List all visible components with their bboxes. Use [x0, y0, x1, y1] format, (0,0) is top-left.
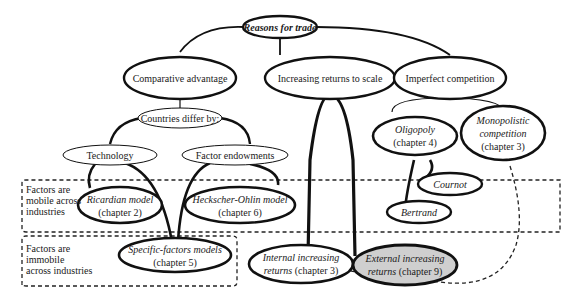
- node-cournot: Cournot: [418, 173, 482, 195]
- node-comparative-advantage: Comparative advantage: [124, 57, 236, 99]
- svg-text:immobile: immobile: [26, 254, 65, 265]
- node-monopolistic-competition: Monopolistic competition (chapter 3): [461, 106, 545, 160]
- node-increasing-returns: Increasing returns to scale: [265, 57, 395, 99]
- node-reasons-for-trade: Reasons for trade: [243, 16, 317, 38]
- node-oligopoly: Oligopoly (chapter 4): [373, 117, 457, 155]
- svg-text:Bertrand: Bertrand: [401, 207, 438, 218]
- svg-text:Countries differ by:: Countries differ by:: [141, 113, 220, 124]
- svg-text:Imperfect competition: Imperfect competition: [405, 73, 494, 84]
- node-bertrand: Bertrand: [387, 201, 451, 223]
- svg-text:External increasing: External increasing: [365, 253, 445, 264]
- node-specific-factors: Specific-factors models (chapter 5): [119, 238, 231, 272]
- svg-text:(chapter 3): (chapter 3): [481, 141, 525, 153]
- svg-text:Reasons for trade: Reasons for trade: [243, 22, 317, 33]
- label-factors-immobile: Factors are immobile across industries: [26, 243, 92, 276]
- trade-reasons-diagram: Reasons for trade Comparative advantage …: [0, 0, 567, 299]
- node-technology: Technology: [63, 145, 157, 165]
- svg-text:industries: industries: [26, 206, 65, 217]
- svg-text:Factors are: Factors are: [26, 184, 71, 195]
- svg-text:returns (chapter 3): returns (chapter 3): [264, 265, 339, 277]
- svg-text:Specific-factors models: Specific-factors models: [128, 244, 222, 255]
- svg-text:Ricardian model: Ricardian model: [86, 194, 154, 205]
- node-external-increasing-returns: External increasing returns (chapter 9): [353, 245, 457, 285]
- svg-text:Comparative advantage: Comparative advantage: [133, 73, 228, 84]
- svg-text:Internal increasing: Internal increasing: [262, 252, 340, 263]
- svg-text:Factors are: Factors are: [26, 243, 71, 254]
- svg-text:(chapter 4): (chapter 4): [393, 137, 437, 149]
- node-imperfect-competition: Imperfect competition: [394, 57, 506, 99]
- label-factors-mobile: Factors are mobile across industries: [26, 184, 81, 217]
- svg-text:competition: competition: [479, 128, 526, 139]
- svg-text:mobile across: mobile across: [26, 195, 81, 206]
- svg-text:(chapter 2): (chapter 2): [98, 207, 142, 219]
- svg-text:Factor endowments: Factor endowments: [196, 150, 275, 161]
- node-ricardian-model: Ricardian model (chapter 2): [78, 187, 162, 223]
- svg-text:across industries: across industries: [26, 265, 92, 276]
- node-factor-endowments: Factor endowments: [182, 145, 288, 165]
- svg-text:Technology: Technology: [86, 150, 133, 161]
- svg-text:(chapter 6): (chapter 6): [218, 207, 262, 219]
- svg-text:Oligopoly: Oligopoly: [395, 124, 436, 135]
- svg-text:Cournot: Cournot: [433, 179, 467, 190]
- node-heckscher-ohlin: Heckscher-Ohlin model (chapter 6): [185, 187, 295, 223]
- svg-text:returns (chapter 9): returns (chapter 9): [368, 266, 443, 278]
- node-internal-increasing-returns: Internal increasing returns (chapter 3): [249, 245, 353, 283]
- svg-text:Monopolistic: Monopolistic: [476, 115, 530, 126]
- svg-text:Heckscher-Ohlin model: Heckscher-Ohlin model: [191, 194, 287, 205]
- svg-text:Increasing returns to scale: Increasing returns to scale: [278, 73, 383, 84]
- svg-text:(chapter 5): (chapter 5): [153, 257, 197, 269]
- node-countries-differ: Countries differ by:: [138, 108, 222, 128]
